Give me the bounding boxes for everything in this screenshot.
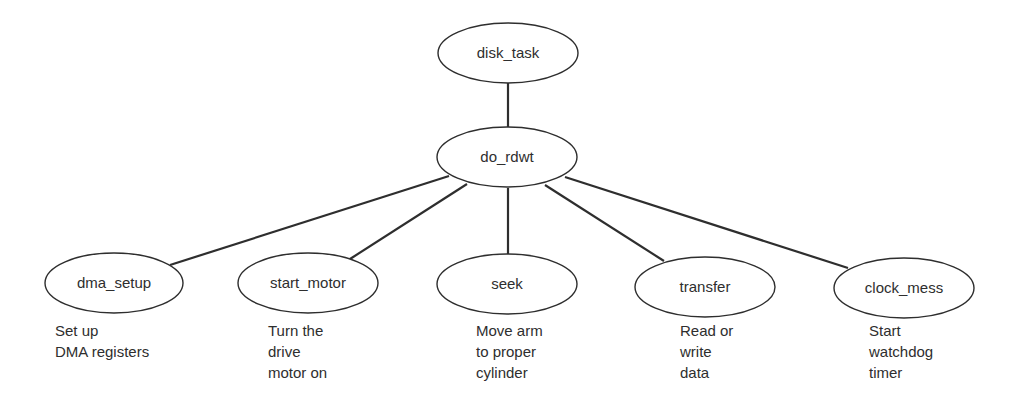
caption-line: watchdog bbox=[869, 341, 933, 362]
caption-dma_setup: Set upDMA registers bbox=[55, 320, 149, 362]
node-label-do_rdwt: do_rdwt bbox=[480, 148, 534, 165]
edge-do_rdwt-to-transfer bbox=[545, 185, 664, 261]
node-label-disk_task: disk_task bbox=[477, 44, 540, 61]
caption-line: cylinder bbox=[476, 362, 543, 383]
node-disk_task: disk_task bbox=[438, 23, 578, 83]
node-label-seek: seek bbox=[491, 275, 523, 292]
node-label-transfer: transfer bbox=[680, 278, 731, 295]
caption-line: to proper bbox=[476, 341, 543, 362]
caption-line: motor on bbox=[268, 362, 327, 383]
node-seek: seek bbox=[437, 254, 577, 314]
node-dma_setup: dma_setup bbox=[45, 253, 183, 313]
node-label-dma_setup: dma_setup bbox=[77, 274, 151, 291]
node-label-start_motor: start_motor bbox=[270, 274, 346, 291]
caption-clock_mess: Startwatchdogtimer bbox=[869, 320, 933, 383]
caption-line: write bbox=[680, 341, 733, 362]
edge-do_rdwt-to-start_motor bbox=[350, 184, 467, 259]
caption-line: Turn the bbox=[268, 320, 327, 341]
node-clock_mess: clock_mess bbox=[834, 258, 974, 318]
caption-line: timer bbox=[869, 362, 933, 383]
node-transfer: transfer bbox=[635, 257, 775, 317]
nodes: disk_taskdo_rdwtdma_setupstart_motorseek… bbox=[45, 23, 974, 318]
node-start_motor: start_motor bbox=[238, 253, 378, 313]
caption-line: DMA registers bbox=[55, 341, 149, 362]
caption-transfer: Read orwritedata bbox=[680, 320, 733, 383]
edge-do_rdwt-to-clock_mess bbox=[565, 177, 848, 268]
caption-line: Set up bbox=[55, 320, 149, 341]
caption-start_motor: Turn thedrivemotor on bbox=[268, 320, 327, 383]
caption-line: Move arm bbox=[476, 320, 543, 341]
caption-line: drive bbox=[268, 341, 327, 362]
caption-line: Start bbox=[869, 320, 933, 341]
caption-line: Read or bbox=[680, 320, 733, 341]
caption-seek: Move armto propercylinder bbox=[476, 320, 543, 383]
node-label-clock_mess: clock_mess bbox=[865, 279, 943, 296]
node-do_rdwt: do_rdwt bbox=[437, 127, 577, 187]
caption-line: data bbox=[680, 362, 733, 383]
edge-do_rdwt-to-dma_setup bbox=[170, 176, 449, 265]
